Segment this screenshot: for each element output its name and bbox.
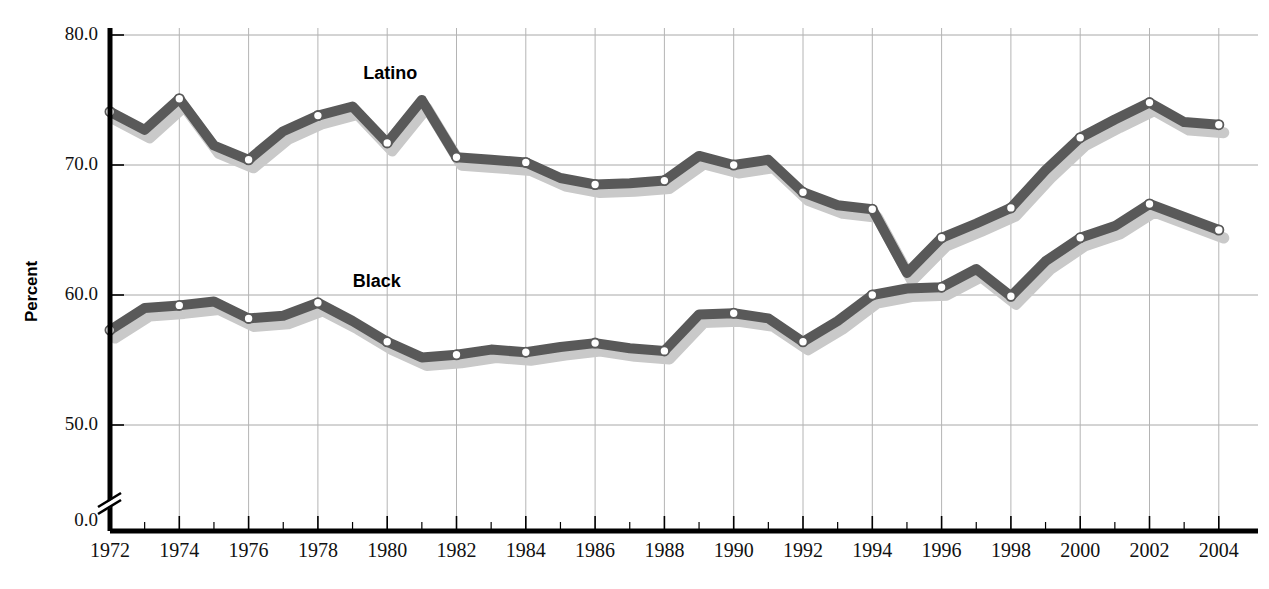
series-marker-black-1992 bbox=[798, 337, 807, 346]
series-marker-black-1976 bbox=[244, 314, 253, 323]
series-marker-latino-2002 bbox=[1145, 98, 1154, 107]
series-marker-black-1980 bbox=[383, 337, 392, 346]
y-tick-label-80.0: 80.0 bbox=[0, 23, 98, 45]
series-annotation-latino: Latino bbox=[363, 63, 417, 84]
series-marker-black-1986 bbox=[591, 339, 600, 348]
series-annotation-black: Black bbox=[353, 271, 401, 292]
series-marker-black-1990 bbox=[729, 309, 738, 318]
y-tick-label-60.0: 60.0 bbox=[0, 283, 98, 305]
axis-lines bbox=[98, 28, 1258, 531]
series-marker-latino-1986 bbox=[591, 180, 600, 189]
line-chart-plot bbox=[0, 0, 1269, 589]
series-marker-black-1988 bbox=[660, 346, 669, 355]
series-marker-black-1998 bbox=[1006, 292, 1015, 301]
series-marker-black-1978 bbox=[313, 298, 322, 307]
series-marker-latino-1990 bbox=[729, 160, 738, 169]
series-marker-latino-1988 bbox=[660, 176, 669, 185]
series-marker-black-1984 bbox=[521, 348, 530, 357]
series-marker-latino-1998 bbox=[1006, 203, 1015, 212]
series-marker-latino-1980 bbox=[383, 138, 392, 147]
series-marker-black-1996 bbox=[937, 283, 946, 292]
series-marker-latino-1982 bbox=[452, 153, 461, 162]
series-marker-black-2000 bbox=[1076, 233, 1085, 242]
series-shadows bbox=[115, 107, 1224, 366]
series-marker-latino-1994 bbox=[868, 205, 877, 214]
series-marker-latino-1996 bbox=[937, 233, 946, 242]
series-marker-latino-2000 bbox=[1076, 133, 1085, 142]
series-marker-black-1994 bbox=[868, 290, 877, 299]
y-tick-label-70.0: 70.0 bbox=[0, 153, 98, 175]
series-marker-latino-1978 bbox=[313, 111, 322, 120]
series-marker-black-1974 bbox=[175, 301, 184, 310]
x-tick-label-2004: 2004 bbox=[1174, 539, 1264, 562]
y-tick-label-50.0: 50.0 bbox=[0, 413, 98, 435]
series-marker-black-2002 bbox=[1145, 199, 1154, 208]
series-marker-black-2004 bbox=[1214, 225, 1223, 234]
series-marker-latino-2004 bbox=[1214, 120, 1223, 129]
vertical-gridlines bbox=[110, 28, 1219, 531]
series-marker-black-1982 bbox=[452, 350, 461, 359]
series-marker-latino-1992 bbox=[798, 188, 807, 197]
horizontal-gridlines bbox=[110, 35, 1258, 425]
series-marker-latino-1976 bbox=[244, 155, 253, 164]
series-marker-latino-1984 bbox=[521, 158, 530, 167]
series-marker-latino-1974 bbox=[175, 94, 184, 103]
chart-container: Percent 0.050.060.070.080.0 197219741976… bbox=[0, 0, 1269, 589]
y-tick-label-0.0: 0.0 bbox=[0, 509, 98, 531]
